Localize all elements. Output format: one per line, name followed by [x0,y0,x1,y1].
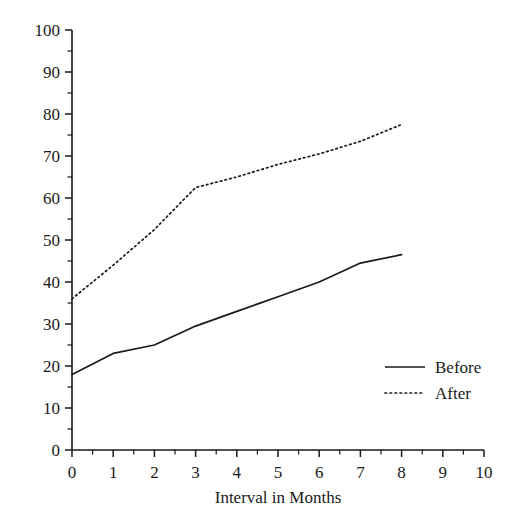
data-series-group [72,125,402,375]
y-tick-label: 60 [43,189,60,208]
y-tick-label: 70 [43,147,60,166]
x-tick-label: 7 [356,463,365,482]
x-tick-label: 6 [315,463,324,482]
y-tick-label: 10 [43,399,60,418]
x-tick-label: 1 [109,463,118,482]
x-tick-label: 9 [439,463,448,482]
y-tick-label: 30 [43,315,60,334]
y-tick-label: 100 [35,21,61,40]
y-tick-label: 90 [43,63,60,82]
y-tick-label: 20 [43,357,60,376]
x-tick-label: 0 [68,463,77,482]
y-tick-label: 80 [43,105,60,124]
x-axis: 012345678910 [68,450,493,482]
chart-canvas: 0102030405060708090100 012345678910 Befo… [0,0,516,531]
y-tick-label: 0 [52,441,61,460]
x-tick-label: 5 [274,463,283,482]
x-tick-label: 8 [397,463,406,482]
x-tick-label: 3 [191,463,200,482]
x-tick-label: 4 [233,463,242,482]
y-tick-label: 40 [43,273,60,292]
y-axis: 0102030405060708090100 [35,21,73,460]
chart-legend: BeforeAfter [385,358,481,403]
x-axis-title: Interval in Months [215,488,342,507]
series-line-after [72,125,402,299]
y-tick-label: 50 [43,231,60,250]
x-tick-label: 10 [476,463,493,482]
line-chart: 0102030405060708090100 012345678910 Befo… [0,0,516,531]
series-line-before [72,255,402,375]
legend-label-after: After [435,384,471,403]
x-tick-label: 2 [150,463,159,482]
legend-label-before: Before [435,358,481,377]
